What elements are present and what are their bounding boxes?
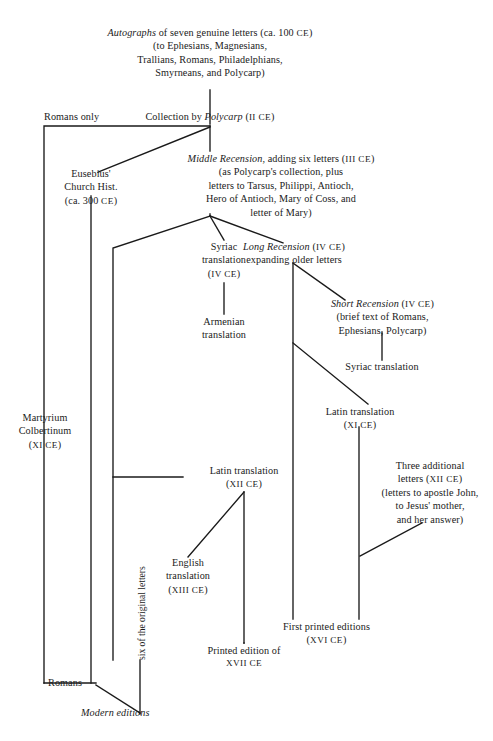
english-line-3: (XIII CE) — [148, 583, 228, 596]
latin-xi-line-2: (XI CE) — [300, 418, 420, 431]
edge-middle-to-long-recension — [210, 216, 283, 243]
autographs-line-4: Smyrneans, and Polycarp) — [0, 66, 420, 79]
node-syriac-translation-plain: Syriac translation — [322, 360, 442, 373]
martyrium-line-3: (XI CE) — [5, 438, 85, 451]
three-additional-line-2: letters (XII CE) — [367, 472, 493, 485]
stemma-diagram: Autographs of seven genuine letters (ca.… — [0, 0, 493, 741]
node-autographs: Autographs of seven genuine letters (ca.… — [0, 26, 420, 80]
long-recension-line-1: Long Recension (IV CE) — [216, 240, 372, 253]
node-latin-translation-xii: Latin translation (XII CE) — [184, 464, 304, 491]
node-short-recension: Short Recension (IV CE) (brief text of R… — [305, 297, 460, 337]
node-eusebius: Eusebius' Church Hist. (ca. 300 CE) — [46, 167, 136, 207]
node-six-of-original-letters: six of the original letters — [137, 566, 147, 660]
autographs-line-3: Trallians, Romans, Philadelphians, — [0, 53, 420, 66]
syriac-iv-line-3: (IV CE) — [184, 267, 264, 280]
node-long-recension: Long Recension (IV CE) expanding older l… — [216, 240, 372, 267]
edge-long-to-short-recension — [293, 263, 345, 300]
polycarp-line-1: Collection by Polycarp (II CE) — [125, 110, 295, 123]
short-recension-line-1: Short Recension (IV CE) — [305, 297, 460, 310]
node-modern-editions: Modern editions — [81, 706, 221, 719]
autographs-line-2: (to Ephesians, Magnesians, — [0, 39, 420, 52]
node-latin-translation-xi: Latin translation (XI CE) — [300, 405, 420, 432]
node-armenian-translation: Armenian translation — [184, 315, 264, 342]
node-printed-edition-xvii: Printed edition of XVII CE — [184, 644, 304, 670]
node-middle-recension: Middle Recension, adding six letters (II… — [136, 152, 426, 219]
eusebius-line-3: (ca. 300 CE) — [46, 194, 136, 207]
edge-english-to-latin-xii — [188, 492, 244, 557]
node-romans-bottom: Romans — [48, 676, 128, 689]
edge-three-additional-to-latin-xi — [360, 523, 422, 556]
node-collection-polycarp: Collection by Polycarp (II CE) — [125, 110, 295, 123]
edge-middle-to-syriac — [210, 216, 224, 240]
node-first-printed-editions: First printed editions (XVI CE) — [259, 620, 394, 647]
autographs-line-1: Autographs of seven genuine letters (ca.… — [0, 26, 420, 39]
edge-long-to-latin-xi — [293, 343, 368, 404]
node-english-translation: English translation (XIII CE) — [148, 556, 228, 596]
node-three-additional-letters: Three additional letters (XII CE) (lette… — [367, 459, 493, 526]
node-martyrium-colbertinum: Martyrium Colbertinum (XI CE) — [5, 411, 85, 451]
latin-xii-line-2: (XII CE) — [184, 477, 304, 490]
middle-recension-line-1: Middle Recension, adding six letters (II… — [136, 152, 426, 165]
